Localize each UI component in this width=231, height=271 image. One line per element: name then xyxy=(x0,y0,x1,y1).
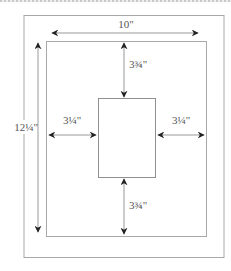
top-margin-label: 3¾" xyxy=(129,58,147,70)
mat-dimension-diagram: 10" 12¼" 3¾" 3¾" 3¼" 3¼" xyxy=(0,0,231,271)
bottom-margin-label: 3¾" xyxy=(129,199,147,211)
height-label: 12¼" xyxy=(14,121,38,133)
left-margin-label: 3¼" xyxy=(63,114,81,126)
mat-rectangle xyxy=(47,42,207,237)
width-label: 10" xyxy=(118,18,134,30)
photo-rectangle xyxy=(99,99,156,178)
right-margin-label: 3¼" xyxy=(172,114,190,126)
